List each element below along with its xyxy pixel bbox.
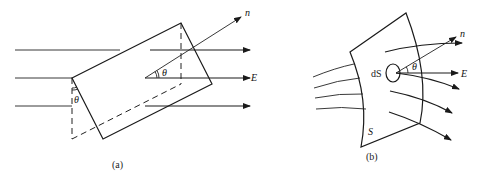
angle-label-left: θ: [74, 94, 79, 105]
flux-diagram: n E θ θ (a) n E θ dS S (b): [0, 0, 478, 175]
figure-b: n E θ dS S (b): [313, 13, 467, 163]
field-line-in-b4: [316, 108, 366, 110]
tilted-plate: [72, 23, 212, 139]
field-label-a: E: [250, 72, 257, 83]
angle-label-center: θ: [162, 67, 167, 78]
field-arrow-out-b4: [389, 112, 451, 140]
field-line-in-b1: [313, 64, 354, 77]
field-line-in-b3: [315, 94, 363, 98]
curved-surface: [350, 13, 423, 147]
field-arrow-out-b2: [396, 73, 459, 89]
normal-vector-n: [396, 37, 456, 73]
normal-vector-arrow: [145, 17, 241, 78]
field-arrow-out-b3: [390, 91, 452, 113]
normal-label-a: n: [245, 7, 250, 18]
angle-label-b: θ: [412, 61, 417, 72]
element-label-ds: dS: [371, 68, 382, 79]
figure-a: n E θ θ (a): [15, 7, 257, 171]
caption-b: (b): [366, 151, 378, 163]
angle-arc-center: [155, 72, 157, 78]
angle-arc-left: [72, 87, 77, 88]
field-arrow-out-b1: [385, 43, 462, 52]
field-label-b: E: [460, 68, 467, 79]
angle-arc-left-2: [72, 89, 78, 90]
normal-label-b: n: [460, 28, 465, 39]
surface-label-s: S: [368, 126, 373, 137]
angle-arc-b: [406, 67, 408, 73]
caption-a: (a): [112, 159, 123, 171]
field-line-in-b2: [314, 78, 360, 88]
projection-bottom-edge: [72, 84, 181, 139]
